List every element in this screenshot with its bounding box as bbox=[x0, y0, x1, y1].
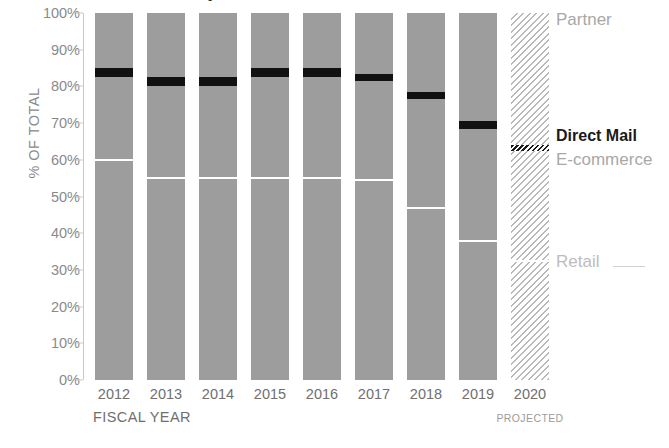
y-axis-tick-label: 70% bbox=[18, 115, 80, 131]
segment-direct-mail[interactable] bbox=[303, 68, 342, 77]
segment-partner[interactable] bbox=[407, 13, 446, 92]
y-axis-tick-mark bbox=[76, 343, 83, 344]
segment-partner[interactable] bbox=[147, 13, 186, 77]
y-axis-tick-label: 80% bbox=[18, 78, 80, 94]
y-axis-tick-mark bbox=[76, 159, 83, 160]
y-axis-tick-label: 0% bbox=[18, 372, 80, 388]
y-axis-tick-mark bbox=[76, 13, 83, 14]
bar-column[interactable] bbox=[511, 13, 550, 380]
bar-column[interactable] bbox=[199, 13, 238, 380]
y-axis-line bbox=[83, 13, 84, 380]
bar-column[interactable] bbox=[459, 13, 498, 380]
segment-retail[interactable] bbox=[251, 178, 290, 380]
segment-direct-mail[interactable] bbox=[355, 74, 394, 81]
segment-divider bbox=[459, 240, 498, 242]
y-axis-tick-label: 100% bbox=[18, 5, 80, 21]
legend-item-retail: Retail bbox=[556, 252, 599, 272]
segment-retail[interactable] bbox=[355, 180, 394, 380]
bar-column[interactable] bbox=[407, 13, 446, 380]
segment-divider bbox=[251, 177, 290, 179]
y-axis-tick-label: 60% bbox=[18, 152, 80, 168]
x-axis-tick-label: 2013 bbox=[150, 386, 182, 402]
plot-area bbox=[88, 13, 556, 380]
y-axis-tick-label: 30% bbox=[18, 262, 80, 278]
x-axis-tick-label: 2020 bbox=[514, 386, 546, 402]
segment-direct-mail[interactable] bbox=[251, 68, 290, 77]
y-axis-tick-label: 10% bbox=[18, 335, 80, 351]
segment-partner[interactable] bbox=[511, 13, 550, 145]
segment-ecommerce[interactable] bbox=[95, 77, 134, 160]
segment-retail[interactable] bbox=[95, 160, 134, 380]
segment-retail[interactable] bbox=[199, 178, 238, 380]
x-axis-title: FISCAL YEAR bbox=[93, 409, 191, 425]
bar-column[interactable] bbox=[95, 13, 134, 380]
bar-column[interactable] bbox=[147, 13, 186, 380]
segment-ecommerce[interactable] bbox=[303, 77, 342, 178]
y-axis-tick-mark bbox=[76, 49, 83, 50]
segment-ecommerce[interactable] bbox=[511, 151, 550, 261]
segment-partner[interactable] bbox=[199, 13, 238, 77]
segment-retail[interactable] bbox=[511, 261, 550, 380]
y-axis-tick-label: 90% bbox=[18, 42, 80, 58]
y-axis-tick-mark bbox=[76, 123, 83, 124]
x-axis-tick-label: 2018 bbox=[410, 386, 442, 402]
chart-title: Revenue by channel bbox=[120, 0, 288, 3]
legend-item-direct-mail: Direct Mail bbox=[556, 127, 637, 145]
segment-ecommerce[interactable] bbox=[147, 86, 186, 178]
segment-partner[interactable] bbox=[459, 13, 498, 121]
segment-direct-mail[interactable] bbox=[147, 77, 186, 86]
bar-column[interactable] bbox=[303, 13, 342, 380]
segment-ecommerce[interactable] bbox=[199, 86, 238, 178]
segment-partner[interactable] bbox=[355, 13, 394, 74]
segment-direct-mail[interactable] bbox=[459, 121, 498, 128]
y-axis-tick-mark bbox=[76, 233, 83, 234]
bar-column[interactable] bbox=[251, 13, 290, 380]
y-axis-tick-mark bbox=[76, 86, 83, 87]
segment-ecommerce[interactable] bbox=[251, 77, 290, 178]
stacked-bar-chart: Revenue by channel % OF TOTAL 100%90%80%… bbox=[0, 0, 669, 448]
x-axis-tick-label: 2017 bbox=[358, 386, 390, 402]
y-axis-tick-label: 50% bbox=[18, 189, 80, 205]
x-axis-tick-label: 2016 bbox=[306, 386, 338, 402]
segment-ecommerce[interactable] bbox=[355, 81, 394, 180]
segment-partner[interactable] bbox=[95, 13, 134, 68]
segment-retail[interactable] bbox=[407, 208, 446, 380]
segment-divider bbox=[303, 177, 342, 179]
x-axis-tick-label: 2012 bbox=[98, 386, 130, 402]
legend-item-partner: Partner bbox=[556, 10, 612, 30]
y-axis-tick-mark bbox=[76, 306, 83, 307]
segment-ecommerce[interactable] bbox=[459, 129, 498, 241]
segment-retail[interactable] bbox=[303, 178, 342, 380]
y-axis-tick-label: 20% bbox=[18, 299, 80, 315]
segment-retail[interactable] bbox=[459, 241, 498, 380]
segment-retail[interactable] bbox=[147, 178, 186, 380]
retail-leader-line bbox=[613, 266, 645, 267]
segment-divider bbox=[511, 260, 550, 262]
segment-partner[interactable] bbox=[251, 13, 290, 68]
segment-divider bbox=[147, 177, 186, 179]
segment-direct-mail[interactable] bbox=[95, 68, 134, 77]
y-axis-tick-mark bbox=[76, 380, 83, 381]
x-axis-tick-label: 2019 bbox=[462, 386, 494, 402]
segment-divider bbox=[95, 159, 134, 161]
segment-divider bbox=[407, 207, 446, 209]
x-axis-tick-label: 2015 bbox=[254, 386, 286, 402]
segment-divider bbox=[355, 179, 394, 181]
y-axis-tick-mark bbox=[76, 269, 83, 270]
y-axis-tick-labels: 100%90%80%70%60%50%40%30%20%10%0% bbox=[8, 0, 80, 448]
segment-direct-mail[interactable] bbox=[199, 77, 238, 86]
y-axis-tick-label: 40% bbox=[18, 225, 80, 241]
segment-partner[interactable] bbox=[303, 13, 342, 68]
segment-ecommerce[interactable] bbox=[407, 99, 446, 207]
bar-column[interactable] bbox=[355, 13, 394, 380]
y-axis-tick-mark bbox=[76, 196, 83, 197]
segment-divider bbox=[199, 177, 238, 179]
x-axis-tick-label: 2014 bbox=[202, 386, 234, 402]
segment-direct-mail[interactable] bbox=[407, 92, 446, 99]
projected-note: PROJECTED bbox=[496, 412, 563, 424]
legend-item-ecommerce: E-commerce bbox=[556, 150, 652, 170]
